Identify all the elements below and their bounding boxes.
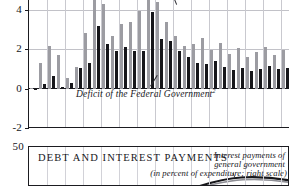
deficit-chart-panel: Deficit of the Federal Government2 xyxy=(28,0,289,128)
bar xyxy=(178,51,182,89)
deficit-y-tick-0: 0 xyxy=(2,82,22,94)
bar xyxy=(268,66,272,89)
bar xyxy=(66,78,70,89)
bar xyxy=(219,43,223,88)
bar xyxy=(165,22,169,88)
bar xyxy=(102,4,106,89)
deficit-y-tick-mark xyxy=(25,128,29,129)
bar xyxy=(151,12,155,89)
deficit-y-tick-mark xyxy=(25,89,29,90)
bar xyxy=(147,0,151,89)
bar xyxy=(192,44,196,88)
bar xyxy=(232,70,236,89)
bar xyxy=(187,57,191,89)
bar xyxy=(183,46,187,88)
bar xyxy=(237,48,241,88)
bar xyxy=(30,88,34,89)
bar xyxy=(120,24,124,88)
bar xyxy=(124,47,128,88)
deficit-annotation-text: Deficit of the Federal Government xyxy=(76,89,212,99)
bar xyxy=(259,69,263,89)
bar xyxy=(223,67,227,89)
bar xyxy=(196,63,200,89)
bar xyxy=(115,51,119,89)
bar xyxy=(228,54,232,89)
bar xyxy=(75,67,79,89)
bar xyxy=(129,22,133,88)
bar xyxy=(214,61,218,89)
bar xyxy=(84,33,88,89)
bar xyxy=(133,51,137,88)
bar xyxy=(93,0,97,89)
deficit-annotation-label: Deficit of the Federal Government2 xyxy=(76,87,216,99)
bar xyxy=(43,84,47,88)
bar xyxy=(201,38,205,88)
bar xyxy=(57,55,61,88)
bar xyxy=(273,55,277,89)
bar xyxy=(34,89,38,91)
debt-interest-panel: DEBT AND INTEREST PAYMENTS Interest paym… xyxy=(28,146,289,186)
bar xyxy=(39,63,43,89)
interest-annot-line-3: (in percent of expenditure; right scale) xyxy=(150,168,287,178)
vertical-gridline xyxy=(65,0,66,127)
bar xyxy=(61,87,65,88)
bar xyxy=(169,41,173,89)
bar xyxy=(264,47,268,88)
deficit-annotation-footnote: 2 xyxy=(212,87,215,94)
bar xyxy=(106,44,110,89)
bar xyxy=(142,51,146,88)
bar xyxy=(282,50,286,88)
bar xyxy=(174,36,178,88)
deficit-y-tick-mark xyxy=(25,10,29,11)
bar xyxy=(138,11,142,89)
deficit-plot-area xyxy=(28,0,289,128)
bar xyxy=(210,50,214,88)
bar xyxy=(97,26,101,89)
deficit-y-tick-2: 2 xyxy=(2,42,22,54)
bar xyxy=(79,68,83,88)
bar xyxy=(255,52,259,88)
deficit-y-tick-mark xyxy=(25,49,29,50)
bar xyxy=(52,76,56,89)
bar xyxy=(246,57,250,89)
bar xyxy=(70,83,74,89)
bar xyxy=(205,64,209,88)
bar xyxy=(48,46,52,88)
bar xyxy=(241,68,245,89)
debt-y-axis-tick-50: 50 xyxy=(2,140,24,152)
debt-interest-title: DEBT AND INTEREST PAYMENTS xyxy=(38,152,228,163)
bar xyxy=(160,39,164,88)
bar xyxy=(277,69,281,88)
deficit-y-tick-4: 4 xyxy=(2,3,22,15)
bar xyxy=(250,71,254,89)
deficit-y-tick--2: -2 xyxy=(2,121,22,133)
bar xyxy=(111,36,115,88)
bar xyxy=(88,63,92,89)
bar xyxy=(286,68,289,89)
